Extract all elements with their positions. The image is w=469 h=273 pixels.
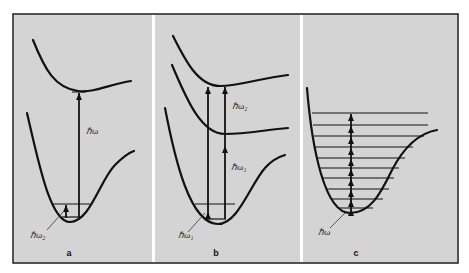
panel-b: ℏω₂ℏω₁ℏω₁b: [155, 15, 300, 262]
panel-background: [155, 15, 300, 262]
photon-energy-label: ℏω₁: [178, 230, 193, 240]
panel-a: ℏωℏω₂a: [14, 15, 152, 262]
photon-energy-label: ℏω: [86, 126, 98, 136]
energy-level-diagram: ℏωℏω₂aℏω₂ℏω₁ℏω₁bℏωc: [0, 0, 469, 273]
panel-background: [303, 15, 457, 262]
panel-background: [14, 15, 152, 262]
photon-energy-label: ℏω₂: [232, 101, 247, 111]
photon-energy-label: ℏω₂: [30, 230, 45, 240]
panel-label: c: [353, 248, 358, 258]
panel-label: b: [213, 248, 219, 258]
photon-energy-label: ℏω: [318, 227, 330, 237]
panel-c: ℏωc: [303, 15, 457, 262]
photon-energy-label: ℏω₁: [231, 162, 246, 172]
